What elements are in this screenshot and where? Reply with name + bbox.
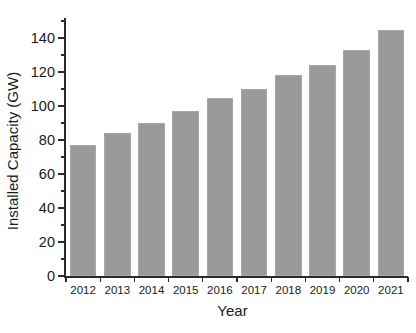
y-tick-minor	[61, 122, 65, 124]
x-tick-label: 2021	[378, 284, 404, 296]
y-tick-major	[58, 173, 64, 175]
bar-chart: Installed Capacity (GW) Year 02040608010…	[0, 0, 416, 333]
bar	[378, 30, 405, 277]
y-tick-label: 80	[39, 132, 55, 148]
x-tick-label: 2016	[207, 284, 233, 296]
x-tick-label: 2014	[139, 284, 165, 296]
y-tick-major	[58, 275, 64, 277]
y-tick-major	[58, 241, 64, 243]
bar	[104, 133, 131, 276]
y-tick-label: 140	[31, 30, 55, 46]
x-tick-label: 2013	[105, 284, 131, 296]
y-tick-label: 20	[39, 234, 55, 250]
x-tick-label: 2012	[70, 284, 96, 296]
y-axis-title: Installed Capacity (GW)	[1, 13, 23, 289]
y-tick-minor	[61, 88, 65, 90]
y-tick-label: 120	[31, 64, 55, 80]
x-tick-minor	[168, 277, 169, 282]
x-tick-label: 2020	[344, 284, 370, 296]
y-tick-major	[58, 207, 64, 209]
y-tick-minor	[61, 190, 65, 192]
y-tick-minor	[61, 224, 65, 226]
bar	[172, 111, 199, 276]
y-tick-major	[58, 105, 64, 107]
x-tick-label: 2019	[310, 284, 336, 296]
x-tick-minor	[134, 277, 135, 282]
y-tick-major	[58, 71, 64, 73]
bar	[70, 145, 97, 276]
x-tick-minor	[65, 277, 66, 282]
x-tick-minor	[100, 277, 101, 282]
x-tick-minor	[236, 277, 237, 282]
y-tick-major	[58, 139, 64, 141]
y-tick-label: 100	[31, 98, 55, 114]
bar	[343, 50, 370, 276]
y-tick-minor	[61, 156, 65, 158]
bar	[241, 89, 268, 276]
y-tick-label: 40	[39, 200, 55, 216]
y-tick-label: 0	[47, 268, 55, 284]
x-tick-minor	[305, 277, 306, 282]
y-tick-minor	[61, 258, 65, 260]
x-axis-title: Year	[66, 302, 399, 319]
y-axis-spine	[64, 18, 66, 276]
x-tick-minor	[202, 277, 203, 282]
bar	[309, 65, 336, 276]
y-tick-major	[58, 37, 64, 39]
y-tick-minor	[61, 54, 65, 56]
bar	[138, 123, 165, 276]
x-tick-minor	[373, 277, 374, 282]
x-tick-minor	[407, 277, 408, 282]
plot-area: 020406080100120140 201220132014201520162…	[66, 21, 408, 276]
y-tick-label: 60	[39, 166, 55, 182]
x-tick-label: 2017	[241, 284, 267, 296]
y-tick-minor	[61, 20, 65, 22]
x-tick-label: 2015	[173, 284, 199, 296]
bar	[207, 98, 234, 277]
x-tick-minor	[339, 277, 340, 282]
x-tick-minor	[271, 277, 272, 282]
bar	[275, 75, 302, 276]
x-tick-label: 2018	[276, 284, 302, 296]
